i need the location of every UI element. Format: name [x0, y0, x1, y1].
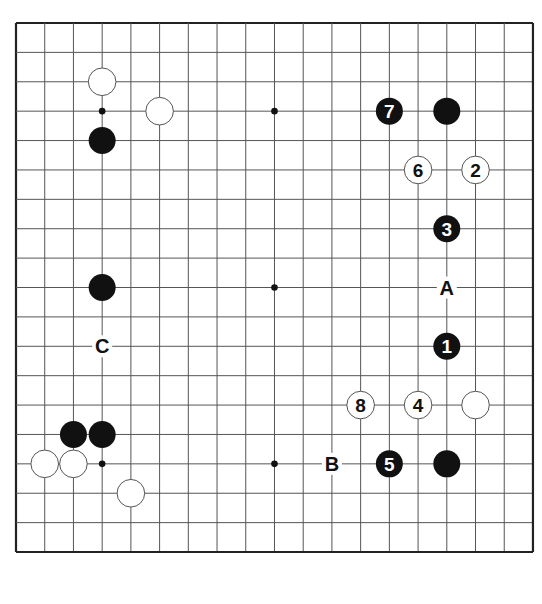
star-point-icon	[271, 284, 278, 291]
marker-c[interactable]: C	[92, 335, 112, 357]
marker-label: A	[440, 277, 454, 299]
white-stone-6[interactable]: 6	[404, 156, 432, 184]
white-stone-4[interactable]: 4	[404, 391, 432, 419]
star-point-icon	[271, 108, 278, 115]
black-stone[interactable]	[60, 421, 87, 448]
black-stone-icon	[60, 421, 87, 448]
white-stone-icon	[88, 68, 116, 96]
black-stone[interactable]	[89, 274, 116, 301]
star-point-icon	[271, 461, 278, 468]
marker-a[interactable]: A	[437, 277, 457, 299]
white-stone-icon	[117, 479, 145, 507]
white-stone[interactable]	[31, 450, 59, 478]
move-number: 5	[384, 454, 395, 475]
black-stone-icon	[433, 98, 460, 125]
star-point-icon	[99, 461, 106, 468]
marker-label: B	[325, 453, 339, 475]
black-stone-5[interactable]: 5	[376, 450, 403, 477]
white-stone[interactable]	[117, 479, 145, 507]
black-stone-3[interactable]: 3	[433, 215, 460, 242]
black-stone[interactable]	[433, 450, 460, 477]
white-stone[interactable]	[462, 391, 490, 419]
go-board[interactable]: ABC 76231845	[0, 0, 542, 604]
white-stone-2[interactable]: 2	[462, 156, 490, 184]
move-number: 2	[470, 160, 481, 181]
black-stone-icon	[89, 274, 116, 301]
marker-b[interactable]: B	[322, 453, 342, 475]
move-number: 3	[442, 219, 453, 240]
black-stone-icon	[89, 421, 116, 448]
white-stone-icon	[60, 450, 88, 478]
white-stone-icon	[462, 391, 490, 419]
black-stone[interactable]	[89, 127, 116, 154]
white-stone-8[interactable]: 8	[347, 391, 375, 419]
black-stone[interactable]	[89, 421, 116, 448]
white-stone[interactable]	[88, 68, 116, 96]
black-stone-icon	[433, 450, 460, 477]
white-stone[interactable]	[146, 97, 174, 125]
marker-label: C	[95, 335, 109, 357]
move-number: 6	[413, 160, 424, 181]
black-stone-7[interactable]: 7	[376, 98, 403, 125]
black-stone[interactable]	[433, 98, 460, 125]
go-board-diagram: ABC 76231845	[0, 0, 542, 604]
move-number: 8	[355, 395, 366, 416]
white-stone[interactable]	[60, 450, 88, 478]
move-number: 4	[413, 395, 424, 416]
white-stone-icon	[31, 450, 59, 478]
black-stone-icon	[89, 127, 116, 154]
black-stone-1[interactable]: 1	[433, 333, 460, 360]
move-number: 7	[384, 101, 395, 122]
move-number: 1	[442, 336, 453, 357]
star-point-icon	[99, 108, 106, 115]
white-stone-icon	[146, 97, 174, 125]
